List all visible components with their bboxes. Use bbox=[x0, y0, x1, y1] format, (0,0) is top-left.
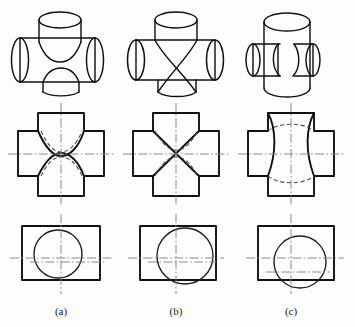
caption-a: (a) bbox=[55, 305, 68, 318]
engineering-drawing: (a) (b) (c) bbox=[0, 0, 355, 327]
drawing-sheet: (a) (b) (c) bbox=[0, 0, 355, 327]
front-view-b bbox=[123, 103, 229, 206]
front-view-c bbox=[238, 103, 344, 206]
top-view-a bbox=[10, 214, 112, 294]
pictorial-c bbox=[246, 13, 320, 97]
caption-b: (b) bbox=[170, 305, 183, 318]
caption-c: (c) bbox=[285, 305, 298, 318]
front-view-a bbox=[8, 103, 114, 206]
pictorial-b bbox=[128, 12, 224, 97]
pictorial-a bbox=[12, 12, 104, 96]
top-view-c bbox=[246, 214, 344, 294]
top-view-b bbox=[128, 214, 224, 294]
